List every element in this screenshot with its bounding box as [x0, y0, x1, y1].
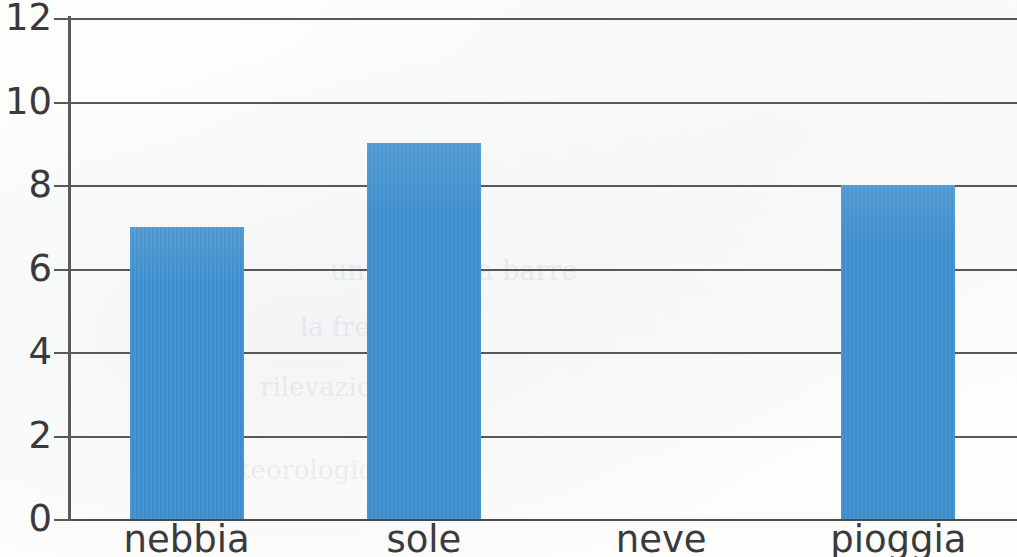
y-axis-tick-mark: [54, 185, 68, 187]
y-axis-tick-mark: [54, 519, 68, 521]
bar-texture: [841, 185, 955, 519]
y-axis-tick-mark: [54, 352, 68, 354]
y-axis-tick-label: 12: [0, 0, 52, 36]
bar-chart: un grafico a barre la frequenza rilevazi…: [0, 0, 1017, 557]
plot-area: 024681012 nebbiasolenevepioggia: [0, 0, 1017, 557]
y-axis-tick-label: 4: [0, 333, 52, 370]
bar-texture: [130, 227, 244, 519]
y-axis-tick-label: 2: [0, 417, 52, 454]
y-axis-tick-label: 6: [0, 250, 52, 287]
gridline: [68, 18, 1017, 20]
x-axis-label-nebbia: nebbia: [68, 521, 305, 557]
x-axis-label-neve: neve: [543, 521, 780, 557]
gridline: [68, 102, 1017, 104]
x-axis-label-sole: sole: [305, 521, 542, 557]
x-axis-label-pioggia: pioggia: [780, 521, 1017, 557]
bar-texture: [367, 143, 481, 519]
y-axis-tick-mark: [54, 269, 68, 271]
bar-pioggia: [841, 185, 955, 519]
y-axis-tick-mark: [54, 102, 68, 104]
y-axis-tick-label: 10: [0, 83, 52, 120]
bar-nebbia: [130, 227, 244, 519]
y-axis-line: [68, 16, 71, 521]
y-axis-tick-label: 0: [0, 500, 52, 537]
y-axis-tick-label: 8: [0, 166, 52, 203]
bar-sole: [367, 143, 481, 519]
y-axis-tick-mark: [54, 436, 68, 438]
y-axis-tick-mark: [54, 18, 68, 20]
